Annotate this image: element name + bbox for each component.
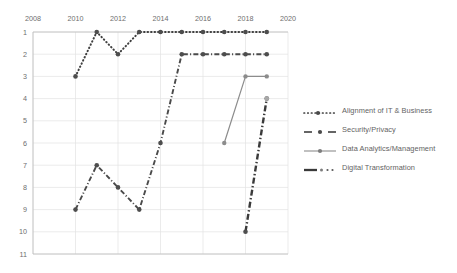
svg-text:3: 3 <box>23 72 27 81</box>
svg-text:9: 9 <box>23 205 27 214</box>
svg-text:2012: 2012 <box>110 14 126 23</box>
digital-transformation-endpoint <box>264 96 269 101</box>
legend-swatch-heavy-dashdot-line <box>303 162 337 174</box>
svg-text:6: 6 <box>23 139 27 148</box>
legend-item-security-privacy[interactable]: Security/Privacy <box>303 120 455 139</box>
svg-text:10: 10 <box>19 227 27 236</box>
legend-swatch-dashdot-marker-line <box>303 124 337 136</box>
chart-legend: Alignment of IT & Business Security/Priv… <box>303 101 455 177</box>
svg-text:11: 11 <box>20 250 27 259</box>
legend-item-data-analytics-management[interactable]: Data Analytics/Management <box>303 139 455 158</box>
legend-swatch-dotted-marker-line <box>303 105 337 117</box>
legend-item-alignment-of-it-business[interactable]: Alignment of IT & Business <box>303 101 455 120</box>
svg-text:2010: 2010 <box>68 14 84 23</box>
svg-text:7: 7 <box>23 161 27 170</box>
svg-text:2: 2 <box>23 50 27 59</box>
x-axis-tick-labels: 2008201020122014201620182020 <box>25 14 296 23</box>
legend-item-digital-transformation[interactable]: Digital Transformation <box>303 158 455 177</box>
svg-text:2018: 2018 <box>238 14 254 23</box>
svg-text:2008: 2008 <box>25 14 41 23</box>
svg-text:1: 1 <box>23 28 27 37</box>
svg-text:5: 5 <box>23 116 27 125</box>
svg-text:4: 4 <box>23 94 27 103</box>
series-1 <box>73 52 269 212</box>
y-axis-tick-labels: 1234567891011 <box>19 28 27 259</box>
legend-label: Security/Privacy <box>342 125 396 134</box>
svg-text:8: 8 <box>23 183 27 192</box>
line-chart-svg: 2008201020122014201620182020 12345678910… <box>0 0 300 273</box>
svg-text:2014: 2014 <box>153 14 169 23</box>
data-series-layer <box>73 30 269 234</box>
legend-label: Data Analytics/Management <box>342 144 435 153</box>
legend-label: Alignment of IT & Business <box>342 106 432 115</box>
svg-text:2020: 2020 <box>280 14 296 23</box>
chart-figure: 2008201020122014201620182020 12345678910… <box>0 0 457 273</box>
plot-area: 2008201020122014201620182020 12345678910… <box>0 0 300 273</box>
legend-swatch-solid-marker-line <box>303 143 337 155</box>
svg-text:2016: 2016 <box>195 14 211 23</box>
legend-label: Digital Transformation <box>342 163 415 172</box>
